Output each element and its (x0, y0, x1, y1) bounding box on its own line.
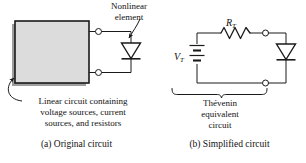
nonlinear-element-diode-a (122, 43, 141, 59)
resistor-label-subscript: T (232, 22, 236, 30)
linear-circuit-callout-line3: sources, and resistors (14, 118, 152, 129)
linear-circuit-callout: Linear circuit containing voltage source… (14, 96, 152, 129)
source-label-vt: VT (174, 46, 184, 65)
thevenin-curly-brace (172, 89, 267, 99)
terminal-circle-bottom-b (263, 80, 269, 86)
linear-circuit-callout-line2: voltage sources, current (14, 107, 152, 118)
linear-circuit-block (15, 21, 89, 83)
source-label-subscript: T (180, 56, 184, 64)
thevenin-brace-callout-line2: equivalent (170, 109, 270, 120)
panel-a-caption: (a) Original circuit (0, 139, 153, 150)
resistor-label-rt: RT (226, 12, 236, 31)
figure-canvas: Nonlinear element Linear circuit contain… (0, 0, 306, 163)
thevenin-brace-callout-line3: circuit (170, 120, 270, 131)
thevenin-brace-callout-line1: Thévenin (170, 98, 270, 109)
nonlinear-element-callout: Nonlinear element (98, 1, 160, 23)
terminal-circle-bottom-a (96, 70, 102, 76)
linear-circuit-callout-line1: Linear circuit containing (14, 96, 152, 107)
terminal-circle-top-a (96, 29, 102, 35)
panel-b-caption: (b) Simplified circuit (153, 139, 306, 150)
terminal-circle-top-b (263, 30, 269, 36)
nonlinear-element-callout-line1: Nonlinear (98, 1, 160, 12)
nonlinear-element-callout-line2: element (98, 12, 160, 23)
nonlinear-element-diode-b (277, 44, 296, 60)
thevenin-brace-callout: Thévenin equivalent circuit (170, 98, 270, 131)
